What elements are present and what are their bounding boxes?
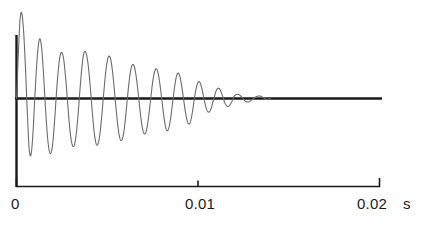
chart-figure: 0 0.01 0.02 s xyxy=(0,0,424,225)
plot-canvas xyxy=(0,0,424,225)
x-axis-unit-label: s xyxy=(403,196,411,211)
x-tick-label-2: 0.02 xyxy=(357,196,387,211)
waveform-trace xyxy=(17,13,271,156)
x-tick-label-0: 0 xyxy=(11,196,20,211)
x-tick-label-1: 0.01 xyxy=(185,196,215,211)
